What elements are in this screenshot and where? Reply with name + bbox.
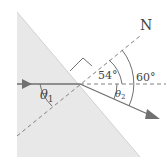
refracted-arrow-icon [145,109,160,119]
angle-54-label: 54° [98,69,118,82]
theta2-label: θ2 [115,88,126,101]
angle-60-label: 60° [136,71,156,84]
right-angle-marker [70,58,92,71]
normal-label: N [140,17,152,33]
refraction-diagram: N 54° 60° θ1 θ2 [0,0,168,157]
